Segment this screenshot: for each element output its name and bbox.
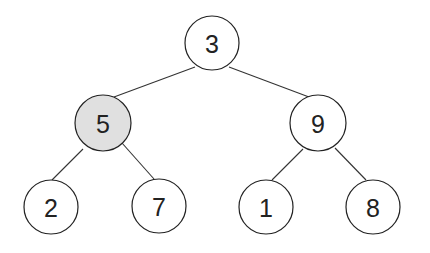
edge-3-5 [114, 67, 195, 97]
node-label: 5 [96, 110, 110, 138]
tree-node-1: 1 [239, 180, 293, 234]
tree-node-3: 3 [185, 16, 239, 70]
node-label: 8 [366, 194, 380, 222]
node-label: 7 [152, 193, 166, 221]
node-label: 2 [44, 194, 58, 222]
edge-5-2 [52, 149, 83, 180]
tree-node-8: 8 [346, 180, 400, 234]
binary-tree-diagram: 3 5 9 2 7 1 8 [0, 0, 430, 253]
tree-node-5-highlighted: 5 [75, 95, 131, 151]
node-label: 9 [311, 110, 325, 138]
nodes: 3 5 9 2 7 1 8 [24, 16, 400, 234]
tree-node-7: 7 [132, 179, 186, 233]
tree-node-9: 9 [290, 95, 346, 151]
edge-5-7 [122, 143, 154, 179]
node-label: 3 [205, 30, 219, 58]
node-label: 1 [259, 194, 273, 222]
edge-9-8 [335, 148, 366, 180]
tree-node-2: 2 [24, 180, 78, 234]
edge-3-9 [229, 67, 309, 97]
edge-9-1 [272, 149, 303, 180]
